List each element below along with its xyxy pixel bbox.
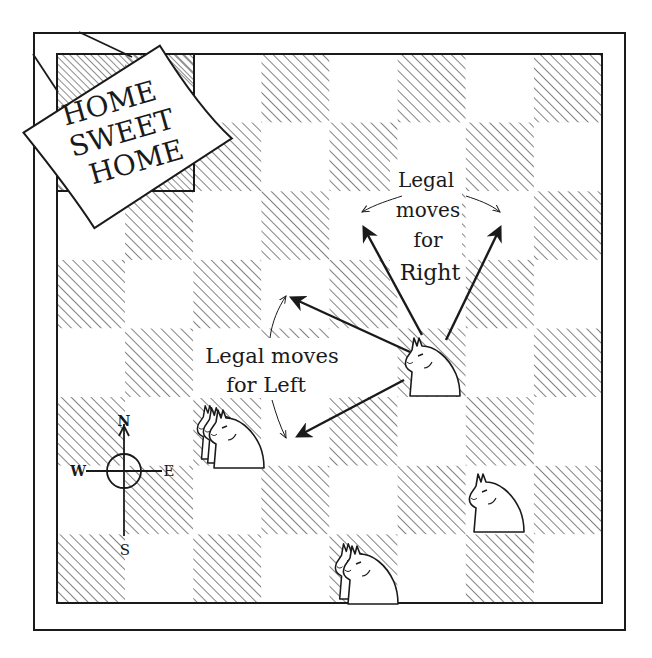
label-right-line-2: moves: [396, 198, 460, 222]
board-square-hatched: [534, 54, 602, 123]
board-square-plain: [57, 466, 125, 535]
board-square-hatched: [193, 260, 261, 329]
chessboard-figure: HOME SWEET HOME Legal moves for Right Le…: [0, 0, 652, 658]
board-square-plain: [398, 397, 466, 466]
compass-west: W: [69, 463, 86, 479]
board-square-plain: [57, 329, 125, 398]
board-square-plain: [125, 260, 193, 329]
board-square-plain: [330, 54, 398, 123]
board-square-plain: [330, 466, 398, 535]
label-left-line-2: for Left: [226, 373, 306, 397]
board-square-plain: [534, 260, 602, 329]
board-square-plain: [534, 534, 602, 603]
board-square-plain: [261, 534, 329, 603]
board-square-plain: [193, 466, 261, 535]
board-square-hatched: [193, 534, 261, 603]
board-square-hatched: [466, 534, 534, 603]
board-square-plain: [193, 191, 261, 260]
board-square-plain: [534, 397, 602, 466]
board-square-plain: [125, 534, 193, 603]
board-square-hatched: [57, 260, 125, 329]
board-square-hatched: [330, 123, 398, 192]
board-square-plain: [466, 329, 534, 398]
board-square-plain: [330, 191, 398, 260]
board-square-hatched: [466, 260, 534, 329]
board-square-hatched: [261, 191, 329, 260]
board-square-hatched: [534, 329, 602, 398]
board-square-hatched: [261, 54, 329, 123]
board-square-hatched: [398, 54, 466, 123]
board-square-plain: [125, 397, 193, 466]
compass-east: E: [164, 462, 175, 480]
compass-south: S: [120, 541, 130, 559]
label-right-line-4: Right: [400, 260, 461, 285]
board-square-plain: [398, 534, 466, 603]
label-legal-moves-right: Legal moves for Right: [390, 160, 462, 290]
compass-north: N: [118, 413, 131, 429]
illustration: HOME SWEET HOME Legal moves for Right Le…: [0, 0, 652, 658]
label-right-line-1: Legal: [398, 168, 454, 192]
board-square-plain: [261, 260, 329, 329]
board-square-hatched: [534, 466, 602, 535]
board-square-hatched: [261, 466, 329, 535]
board-square-plain: [261, 397, 329, 466]
label-legal-moves-left: Legal moves for Left: [198, 338, 348, 398]
board-square-hatched: [466, 397, 534, 466]
board-square-plain: [466, 54, 534, 123]
board-square-hatched: [125, 329, 193, 398]
board-square-hatched: [398, 466, 466, 535]
board-square-hatched: [57, 397, 125, 466]
label-right-line-3: for: [413, 228, 442, 252]
board-square-plain: [261, 123, 329, 192]
board-square-plain: [466, 191, 534, 260]
board-square-plain: [534, 123, 602, 192]
label-left-line-1: Legal moves: [205, 344, 338, 368]
board-square-hatched: [330, 397, 398, 466]
board-square-hatched: [466, 123, 534, 192]
board-square-hatched: [57, 534, 125, 603]
board-square-hatched: [125, 466, 193, 535]
board-square-hatched: [534, 191, 602, 260]
